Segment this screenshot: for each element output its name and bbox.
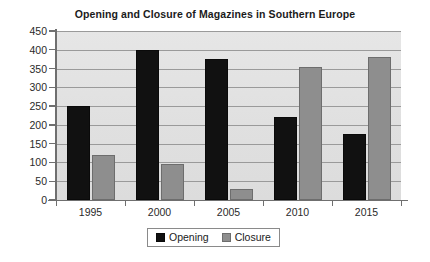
y-axis-labels: 050100150200250300350400450: [0, 0, 47, 262]
x-axis-line: [48, 200, 408, 202]
y-axis-tick: [49, 143, 56, 144]
y-axis-tick-label: 200: [3, 119, 47, 131]
y-axis-tick-label: 150: [3, 138, 47, 150]
plot-area: [56, 31, 401, 200]
y-axis-tick: [49, 181, 56, 182]
x-axis-tick-label-1995: 1995: [79, 206, 102, 218]
bar-opening-2000: [136, 50, 159, 200]
x-axis-tick: [194, 200, 195, 206]
y-axis-tick-label: 300: [3, 81, 47, 93]
y-axis-line: [55, 29, 57, 201]
chart-legend: Opening Closure: [147, 228, 280, 247]
y-axis-tick: [49, 68, 56, 69]
y-axis-tick: [49, 162, 56, 163]
legend-item-opening: Opening: [156, 231, 209, 243]
gridline: [56, 50, 401, 51]
bar-closure-2010: [299, 67, 322, 200]
y-axis-tick-label: 400: [3, 44, 47, 56]
bar-opening-2005: [205, 59, 228, 200]
bar-opening-2015: [343, 134, 366, 200]
x-axis-tick-label-2005: 2005: [217, 206, 240, 218]
gridline: [56, 106, 401, 107]
x-axis-tick: [401, 200, 402, 206]
y-axis-tick: [49, 199, 56, 200]
y-axis-tick: [49, 30, 56, 31]
y-axis-tick-label: 350: [3, 63, 47, 75]
y-axis-tick: [49, 105, 56, 106]
bar-closure-1995: [92, 155, 115, 200]
gridline: [56, 87, 401, 88]
gridline: [56, 125, 401, 126]
legend-swatch-closure-icon: [222, 233, 231, 242]
y-axis-tick-label: 450: [3, 25, 47, 37]
bar-opening-1995: [67, 106, 90, 200]
y-axis-tick-label: 50: [3, 175, 47, 187]
x-axis-tick-label-2015: 2015: [355, 206, 378, 218]
x-axis-tick-label-2000: 2000: [148, 206, 171, 218]
bar-closure-2000: [161, 164, 184, 200]
bar-chart: Opening and Closure of Magazines in Sout…: [0, 0, 430, 262]
x-axis-tick: [332, 200, 333, 206]
bar-closure-2005: [230, 189, 253, 200]
gridline: [56, 69, 401, 70]
y-axis-tick-label: 0: [3, 194, 47, 206]
legend-swatch-opening-icon: [156, 233, 165, 242]
gridline: [56, 31, 401, 32]
y-axis-tick: [49, 87, 56, 88]
x-axis-tick: [263, 200, 264, 206]
y-axis-tick: [49, 124, 56, 125]
x-axis-tick: [125, 200, 126, 206]
y-axis-tick-label: 250: [3, 100, 47, 112]
y-axis-tick-label: 100: [3, 156, 47, 168]
x-axis-tick: [56, 200, 57, 206]
y-axis-tick: [49, 49, 56, 50]
bar-opening-2010: [274, 117, 297, 200]
legend-label-opening: Opening: [169, 231, 209, 243]
x-axis-tick-label-2010: 2010: [286, 206, 309, 218]
chart-title: Opening and Closure of Magazines in Sout…: [0, 8, 430, 20]
legend-item-closure: Closure: [222, 231, 271, 243]
legend-label-closure: Closure: [235, 231, 271, 243]
bar-closure-2015: [368, 57, 391, 200]
